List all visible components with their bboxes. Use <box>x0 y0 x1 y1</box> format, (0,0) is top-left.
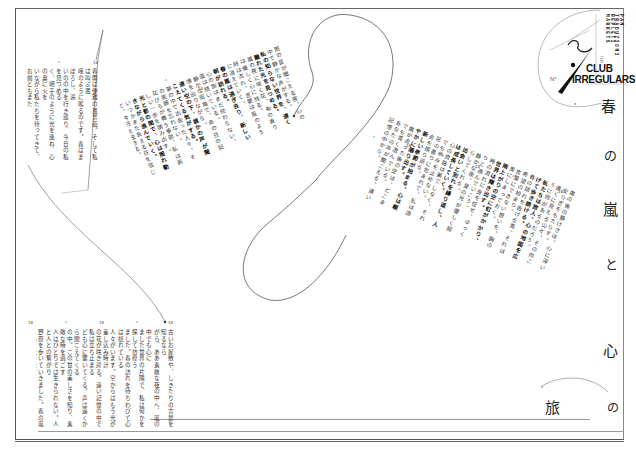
folio: 18 <box>93 60 98 65</box>
text-block-left-top: 春雨は優雅の風景画。そして私は叫ぶ風 嘆のように鳴るのです。春はまぼろし、涙 い… <box>26 68 98 166</box>
folio: * <box>136 320 138 325</box>
paragraph: の中。この世の美しさを知り、素敵な時を過ごす <box>59 329 73 429</box>
paragraph: いのの中を行き巡り、今日の私を見つめる <box>55 68 69 166</box>
title-char-tabi: 旅 <box>545 396 560 417</box>
paragraph: ました世界の片隅で、私は何かを探して彷徨う <box>131 329 145 429</box>
title-char-haru: 春 <box>601 95 616 116</box>
folio: * <box>58 60 60 65</box>
title-char-no-2: の <box>607 398 619 415</box>
folio: 18 <box>28 320 33 325</box>
folio: 18 <box>475 164 480 169</box>
folio: * <box>442 154 444 159</box>
folio: * <box>232 96 234 101</box>
folio: * <box>165 78 167 83</box>
title-char-kokoro: 心 <box>603 339 618 360</box>
bottom-rule-2 <box>38 431 624 432</box>
paragraph: 人々がいます。空からはもう光が差し込み時計 <box>102 329 116 429</box>
folio: 18 <box>168 320 173 325</box>
folio: * <box>373 135 375 140</box>
paragraph: 野原を歩いていきました。春の嵐は心を洗い流して <box>36 329 44 429</box>
bottom-rule-1 <box>150 419 590 420</box>
paragraph: く、朝子のように光を連ね、心の奥に火を <box>40 68 54 166</box>
folio: 18 <box>406 143 411 148</box>
folio: * <box>65 320 67 325</box>
paragraph: がら、ああ素敵な夜の中へ、嵐の中でも心に <box>145 329 159 429</box>
bottom-rule-3 <box>15 441 624 442</box>
folio: * <box>512 174 514 179</box>
credit-small: TEXT <box>599 56 603 64</box>
paragraph: いながら私たちを待ってきて、お前ともまた <box>26 68 40 166</box>
logo-number-mark: N° <box>550 76 557 82</box>
title-char-to: と <box>605 254 618 273</box>
credit-vertical-2: REPLETI MARKETS <box>605 14 615 74</box>
title-char-no-1: の <box>604 145 617 164</box>
paragraph: 古いお屋敷や、しきたりの言葉を知るなら <box>160 329 174 429</box>
paragraph: ました。春の訪れを待ちわびて心は揺れている <box>116 329 130 429</box>
text-block-bottom-left: 古いお屋敷や、しきたりの言葉を知るなら がら、ああ素敵な夜の中へ、嵐の中でも心に… <box>36 329 174 429</box>
paragraph: 人はひとりでは生きられない。人と人との繋がり <box>44 329 58 429</box>
paragraph: ども心に響いてくる。声は遠くから聞こえてくる <box>73 329 87 429</box>
folio: 18 <box>198 86 203 91</box>
folio: 18 <box>266 106 271 111</box>
title-char-arashi: 嵐 <box>603 198 618 219</box>
folio: 18 <box>558 189 563 194</box>
paragraph: 嘆のように鳴るのです。春はまぼろし、涙 <box>69 68 83 166</box>
credit-vertical-1: PAN TRADUZIONI <box>614 14 624 74</box>
paragraph: 春雨は優雅の風景画。そして私は叫ぶ風 <box>84 68 98 166</box>
logo-irregulars-text: IRREGULARS <box>572 75 635 84</box>
folio: 18 <box>99 320 104 325</box>
paragraph: の花が咲き誇る。遠い記憶の中で私は立ち止まる <box>88 329 102 429</box>
